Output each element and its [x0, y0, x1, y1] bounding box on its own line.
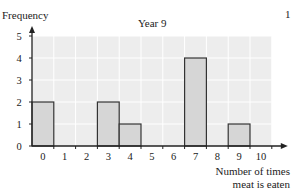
x-tick-label: 10 [256, 151, 267, 162]
y-axis-arrow-icon [29, 26, 35, 33]
bar-0 [32, 102, 54, 146]
x-axis-label-line2: meat is eaten [200, 179, 290, 190]
x-tick-label: 6 [171, 151, 176, 162]
y-tick-label: 5 [16, 31, 21, 42]
x-axis-label-line1: Number of times [200, 166, 290, 177]
x-tick-label: 3 [106, 151, 111, 162]
x-tick-label: 9 [236, 151, 241, 162]
x-tick-label: 4 [127, 151, 133, 162]
x-tick-label: 7 [193, 151, 198, 162]
y-tick-label: 2 [16, 97, 21, 108]
bar-7 [185, 58, 207, 146]
y-tick-label: 3 [16, 75, 21, 86]
bar-9 [228, 124, 250, 146]
bar-3 [97, 102, 119, 146]
x-tick-label: 8 [215, 151, 220, 162]
y-tick-label: 1 [16, 119, 21, 130]
y-tick-label: 0 [16, 141, 21, 152]
bar-4 [119, 124, 141, 146]
x-tick-label: 5 [149, 151, 154, 162]
y-tick-label: 4 [16, 53, 22, 64]
x-tick-label: 0 [40, 151, 45, 162]
x-tick-label: 2 [84, 151, 89, 162]
x-tick-label: 1 [62, 151, 67, 162]
x-axis-arrow-icon [281, 143, 288, 149]
